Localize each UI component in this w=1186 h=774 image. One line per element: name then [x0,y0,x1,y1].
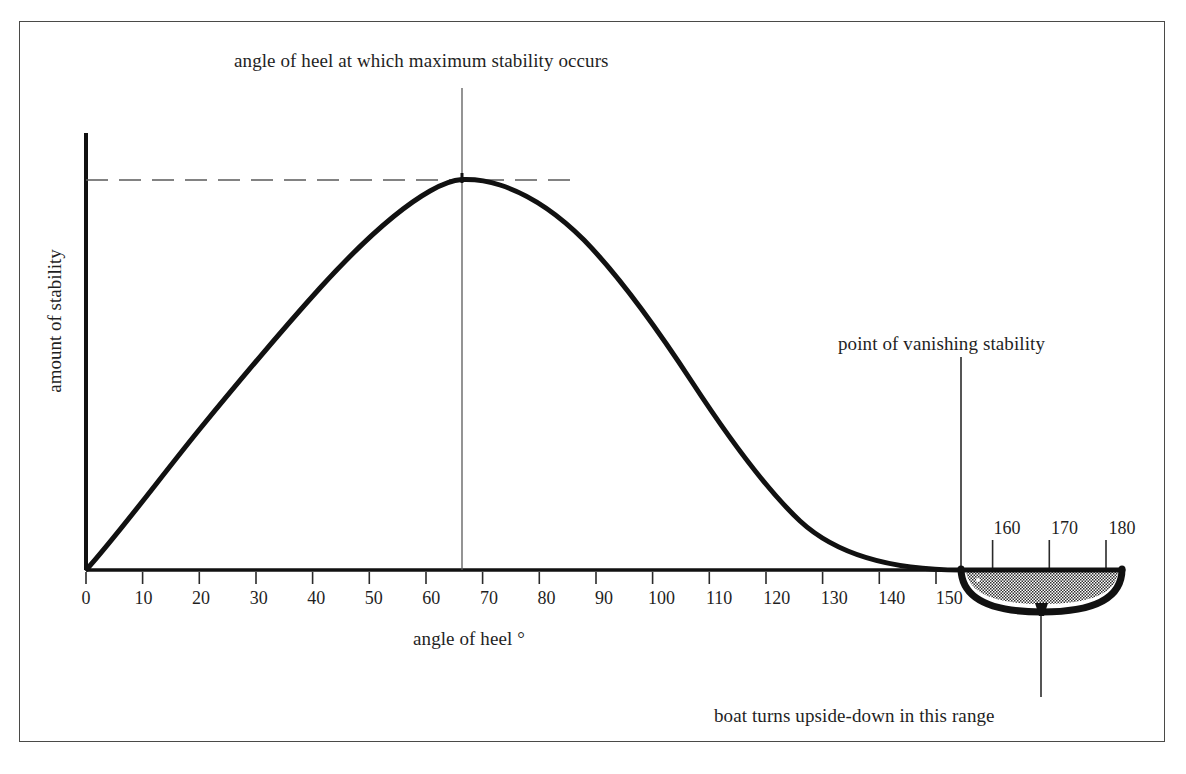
x-tick-label-20: 20 [192,588,210,609]
y-axis-title: amount of stability [44,241,66,401]
x-tick-label-50: 50 [365,588,383,609]
annotation-max-stability: angle of heel at which maximum stability… [234,50,609,72]
x-tick-label-160: 160 [993,518,1020,539]
chart-canvas [0,0,1186,774]
x-tick-label-0: 0 [82,588,91,609]
x-tick-label-70: 70 [480,588,498,609]
stability-curve-line [87,179,961,570]
x-tick-label-150: 150 [936,588,963,609]
x-tick-label-30: 30 [250,588,268,609]
x-tick-label-10: 10 [135,588,153,609]
stability-curve-figure: angle of heel at which maximum stability… [0,0,1186,774]
x-tick-label-110: 110 [706,588,732,609]
x-tick-label-90: 90 [595,588,613,609]
x-axis-ticks-lower [86,572,936,584]
x-axis-title: angle of heel ° [413,628,525,650]
hull-stipple-fill [966,571,1118,604]
x-tick-label-180: 180 [1109,518,1136,539]
x-tick-label-100: 100 [648,588,675,609]
x-tick-label-80: 80 [537,588,555,609]
x-axis-ticks-upper [993,540,1106,568]
annotation-vanishing-stability: point of vanishing stability [838,333,1045,355]
annotation-upside-down-range: boat turns upside-down in this range [714,705,995,727]
x-tick-label-40: 40 [307,588,325,609]
capsized-hull-graphic [961,569,1123,616]
x-tick-label-130: 130 [821,588,848,609]
x-tick-label-120: 120 [763,588,790,609]
x-tick-label-60: 60 [422,588,440,609]
x-tick-label-140: 140 [878,588,905,609]
x-tick-label-170: 170 [1051,518,1078,539]
hull-highlight-speck [976,578,980,582]
